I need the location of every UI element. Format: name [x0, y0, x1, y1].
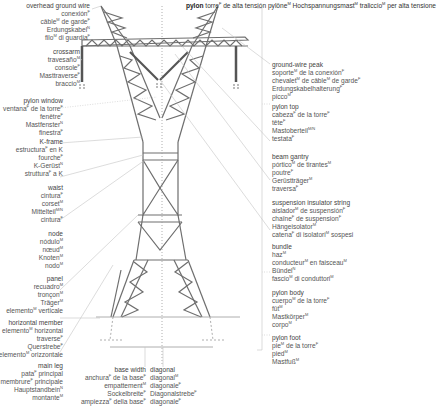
label-waist: waist cinturaF corsetM MittelteilM/N cin… [31, 184, 63, 224]
label-term-es: diagonalM [150, 374, 197, 382]
label-term-it: montanteM [0, 394, 63, 402]
label-panel: panel recuadroM tronçonM TrägerM element… [6, 275, 63, 315]
label-suspension-insulator-string: suspension insulator string aisladorM de… [272, 199, 353, 239]
label-term-it: diagonaleF [150, 398, 197, 406]
label-term-it: testataF [272, 135, 330, 143]
label-crossarm: crossarm travesañoM consoleF Masttravers… [39, 48, 80, 88]
label-term-en: pylon foot [272, 334, 318, 342]
label-term-it: catenaF di isolatoriM sospesi [272, 231, 353, 239]
label-term-de: BündelN [272, 267, 347, 275]
label-term-it: traversaF [272, 185, 331, 193]
label-term-en: overhead ground wire [26, 2, 90, 10]
label-term-fr: fûtM [272, 305, 330, 313]
label-term-it: elementoM verticale [6, 307, 63, 315]
label-overhead-ground-wire: overhead ground wire conexiónF câbleM de… [26, 2, 90, 42]
label-term-de: HängeisolatorM [272, 223, 353, 231]
label-term-de: MittelteilM/N [31, 208, 63, 216]
label-term-it: braccioM [39, 80, 80, 88]
label-term-de: ErdungskabelN [26, 26, 90, 34]
label-term-fr: empattementM [81, 382, 146, 390]
label-term-it: fascioM di conduttoriM [272, 275, 347, 283]
label-pylon-foot: pylon foot pieM de la torreF piedM Mastf… [272, 334, 318, 366]
label-term-fr: consoleF [39, 64, 80, 72]
label-term-es: anchuraF de la baseF [81, 374, 146, 382]
label-term-fr: fourcheF [16, 154, 63, 162]
label-term-en: pylon window [3, 97, 63, 105]
label-term-es: ventanaF de la torreF [3, 105, 63, 113]
label-term-fr: chevaletM de câbleM de gardeF [272, 77, 360, 85]
label-term-es: hazM [272, 251, 347, 259]
label-beam-gantry: beam gantry pórticoM de tirantesM poutre… [272, 153, 331, 193]
label-diagonal: diagonal diagonalM diagonaleF Diagonalst… [150, 366, 197, 406]
label-term-de: K-GerüstN [16, 162, 63, 170]
title-es: torreF de alta tensión [205, 2, 266, 9]
label-term-en: panel [6, 275, 63, 283]
label-term-fr: tronçonM [6, 291, 63, 299]
label-term-es: estructuraF en K [16, 146, 63, 154]
label-node: node nóduloM nœudM KnotenM nodoM [39, 230, 63, 270]
label-term-fr: têteF [272, 119, 330, 127]
label-term-fr: poutreF [272, 169, 331, 177]
label-term-es: travesañoM [39, 56, 80, 64]
title-de: HochspannungsmastM [293, 2, 358, 9]
label-term-es: aisladorM de suspensiónF [272, 207, 353, 215]
title-en: pylon [186, 2, 204, 9]
label-term-de: MastfensterN [3, 121, 63, 129]
label-term-it: cinturaF [31, 216, 63, 224]
label-term-fr: traverseF [0, 335, 63, 343]
label-term-en: K-frame [16, 138, 63, 146]
label-term-de: MastkörperM [272, 313, 330, 321]
pylon-title-block: pylon torreF de alta tensión pylôneM Hoc… [186, 2, 436, 10]
label-term-de: HauptstandbeinN [0, 386, 63, 394]
label-term-fr: membrureF principale [0, 378, 63, 386]
label-term-es: cabezaF de la torreF [272, 111, 330, 119]
label-base-width: base width anchuraF de la baseF empattem… [81, 366, 146, 406]
label-term-de: GerüstträgerM [272, 177, 331, 185]
label-term-en: crossarm [39, 48, 80, 56]
label-term-en: pylon body [272, 289, 330, 297]
label-term-it: piccoM [272, 93, 360, 101]
label-term-de: DiagonalstrebeF [150, 390, 197, 398]
label-term-en: ground-wire peak [272, 61, 360, 69]
label-ground-wire-peak: ground-wire peak soporteM de la conexión… [272, 61, 360, 101]
label-term-en: beam gantry [272, 153, 331, 161]
label-term-fr: conducteurM en faisceauM [272, 259, 347, 267]
label-term-de: MasttraverseF [39, 72, 80, 80]
label-term-es: recuadroM [6, 283, 63, 291]
label-term-de: MastoberteilM/N [272, 127, 330, 135]
label-term-de: SockelbreiteF [81, 390, 146, 398]
label-term-en: main leg [0, 362, 63, 370]
label-term-fr: diagonaleF [150, 382, 197, 390]
label-term-de: QuerstrebeF [0, 343, 63, 351]
label-term-en: waist [31, 184, 63, 192]
label-term-es: cinturaF [31, 192, 63, 200]
label-term-it: elementoM orizzontale [0, 351, 63, 359]
label-term-fr: câbleM de gardeF [26, 18, 90, 26]
label-horizontal-member: horizontal member elementoM horizontal t… [0, 319, 63, 359]
label-pylon-window: pylon window ventanaF de la torreF fenêt… [3, 97, 63, 137]
title-it: traliccioM per alta tensione [360, 2, 436, 9]
label-main-leg: main leg pataF principal membrureF princ… [0, 362, 63, 402]
label-term-en: pylon top [272, 103, 330, 111]
label-term-it: corpoM [272, 321, 330, 329]
label-term-de: MastfußM [272, 358, 318, 366]
label-term-en: base width [81, 366, 146, 374]
label-pylon-top: pylon top cabezaF de la torreF têteF Mas… [272, 103, 330, 143]
label-term-es: pórticoM de tirantesM [272, 161, 331, 169]
title-fr: pylôneM [268, 2, 291, 9]
label-term-it: nodoM [39, 262, 63, 270]
label-term-it: filoM di guardiaF [26, 34, 90, 42]
label-term-it: ampiezzaF della baseF [81, 398, 146, 406]
label-term-fr: fenêtreF [3, 113, 63, 121]
label-term-de: ErdungskabelhalterungF [272, 85, 360, 93]
label-term-it: strutturaF a K [16, 170, 63, 178]
label-term-en: diagonal [150, 366, 197, 374]
label-k-frame: K-frame estructuraF en K fourcheF K-Gerü… [16, 138, 63, 178]
label-term-en: suspension insulator string [272, 199, 353, 207]
label-term-es: elementoM horizontal [0, 327, 63, 335]
label-pylon-body: pylon body cuerpoM de la torreF fûtM Mas… [272, 289, 330, 329]
label-term-es: soporteM de la conexiónF [272, 69, 360, 77]
label-bundle: bundle hazM conducteurM en faisceauM Bün… [272, 243, 347, 283]
label-term-it: finestraF [3, 129, 63, 137]
label-term-es: pieM de la torreF [272, 342, 318, 350]
